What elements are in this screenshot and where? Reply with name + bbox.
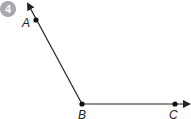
point-c (172, 101, 177, 106)
angle-diagram: 4 A B C (0, 0, 191, 119)
problem-badge: 4 (0, 1, 16, 17)
point-a (33, 17, 38, 22)
problem-number: 4 (5, 3, 12, 15)
label-c: C (169, 108, 178, 119)
label-a: A (21, 16, 30, 30)
point-b (79, 101, 84, 106)
label-b: B (78, 108, 86, 119)
